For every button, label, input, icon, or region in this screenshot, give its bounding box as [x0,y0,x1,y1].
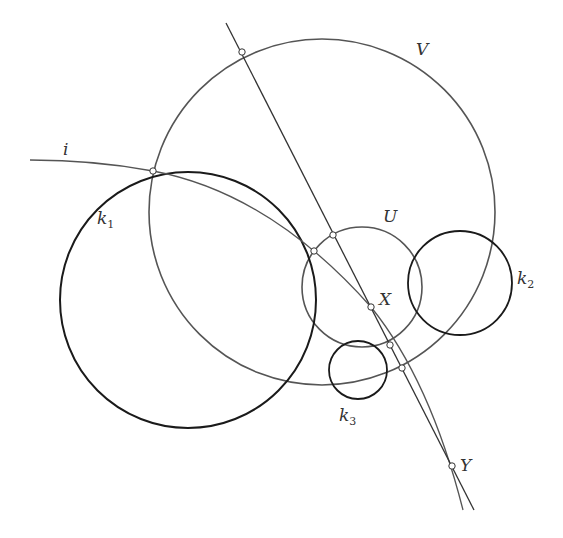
geometry-diagram: i V U X Y k1 k2 k3 [0,0,563,538]
point-y [449,463,455,469]
label-k3-main: k [339,405,349,425]
circle-k2 [408,231,512,335]
label-x: X [377,289,392,309]
circle-k3 [329,341,387,399]
point-u-line [330,232,336,238]
label-k1-sub: 1 [107,218,114,231]
point-v-bottom [399,365,405,371]
point-u-bottom [387,342,393,348]
label-v: V [416,39,430,59]
circle-u [302,227,422,347]
point-v-top [239,49,245,55]
label-k2: k2 [517,268,534,291]
label-k2-main: k [517,268,527,288]
label-i: i [63,139,68,159]
point-u-k1 [311,248,317,254]
label-k1-main: k [97,208,107,228]
label-u: U [383,206,398,226]
label-y: Y [460,455,473,475]
label-k3-sub: 3 [349,415,356,428]
label-k1: k1 [97,208,114,231]
point-i-k1 [150,168,156,174]
label-k3: k3 [339,405,356,428]
point-x [368,304,374,310]
label-k2-sub: 2 [527,278,534,291]
line-through-x-y [226,23,474,510]
points [150,49,455,469]
